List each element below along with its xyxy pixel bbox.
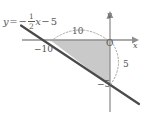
equation-equals: =	[9, 17, 18, 27]
origin-label: O	[106, 39, 113, 48]
equation-constant-operator: −	[41, 17, 50, 27]
y-intercept-label: −5	[97, 80, 110, 89]
x-axis-label: x	[133, 42, 138, 50]
y-axis-label: y	[107, 11, 112, 19]
height-measure-label: 5	[123, 60, 129, 69]
math-figure: y = − 1 2 x − 5 −10 10 5 −5 O x y	[0, 0, 145, 131]
x-intercept-label: −10	[34, 45, 53, 54]
fraction-numerator: 1	[28, 13, 35, 21]
equation-fraction: 1 2	[28, 13, 35, 30]
base-measure-label: 10	[72, 27, 83, 36]
function-line	[21, 26, 139, 105]
equation-label: y = − 1 2 x − 5	[3, 13, 58, 30]
equation-minus-sign: −	[18, 17, 27, 27]
fraction-denominator: 2	[28, 22, 35, 30]
equation-constant: 5	[50, 17, 57, 27]
